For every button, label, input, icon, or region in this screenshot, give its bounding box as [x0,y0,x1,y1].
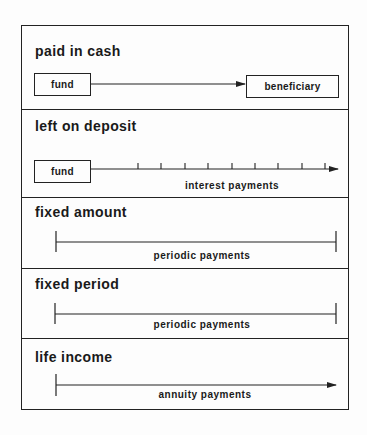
section-title: life income [35,349,113,365]
section-fixed-amount: fixed amount periodic payments [22,197,348,268]
interest-payments-label: interest payments [167,180,297,191]
fund-box: fund [34,73,91,96]
section-left-on-deposit: left on deposit fund interest payments [22,109,348,197]
annuity-payments-label: annuity payments [150,389,260,400]
section-title: paid in cash [35,43,121,59]
section-life-income: life income annuity payments [22,338,348,409]
section-title: fixed period [35,276,119,292]
diagram-frame: paid in cash fund beneficiary left on de… [21,25,349,410]
section-title: fixed amount [35,204,127,220]
fund-box: fund [34,160,91,183]
beneficiary-box: beneficiary [246,75,339,98]
periodic-payments-label: periodic payments [142,319,262,330]
section-fixed-period: fixed period periodic payments [22,268,348,338]
periodic-payments-label: periodic payments [142,250,262,261]
section-title: left on deposit [35,118,137,134]
section-paid-in-cash: paid in cash fund beneficiary [22,26,348,109]
